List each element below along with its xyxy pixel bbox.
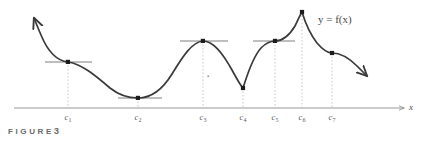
critical-point-markers [66,10,334,100]
point-marker-c7 [330,51,334,55]
curve-segment-c3-c4 [203,41,243,88]
curve-segment-left-arrow [34,18,68,62]
tick-label-c3: c3 [200,113,207,122]
tick-label-c7: c7 [329,113,336,122]
point-marker-c2 [136,96,140,100]
graph-canvas [0,0,440,144]
drop-lines [68,12,332,108]
figure-caption-word: FIGURE [8,127,54,136]
figure-3-graph: c1 c2 c3 c4 c5 c6 c7 x y = f(x) FIGURE3 [0,0,440,144]
tick-label-c4: c4 [240,113,247,122]
tick-label-c1: c1 [65,113,72,122]
curve-equation-label: y = f(x) [318,14,352,25]
tangent-lines [45,41,295,98]
point-marker-c4 [241,86,245,90]
x-axis-label: x [409,103,413,112]
scan-speck [207,75,209,77]
point-marker-c3 [201,39,205,43]
point-marker-c6 [300,10,304,14]
tick-label-c2: c2 [135,113,142,122]
curve-segment-c5-c6 [275,12,302,41]
figure-caption: FIGURE3 [8,126,59,136]
curve-segment-c1-c2 [68,62,138,98]
tick-label-c6: c6 [299,113,306,122]
figure-caption-number: 3 [54,125,59,136]
point-marker-c5 [273,39,277,43]
curve-segment-c4-c5 [243,41,275,88]
curve-segment-right-arrow [332,53,367,76]
curve-segment-c2-c3 [138,41,203,98]
point-marker-c1 [66,60,70,64]
tick-label-c5: c5 [272,113,279,122]
